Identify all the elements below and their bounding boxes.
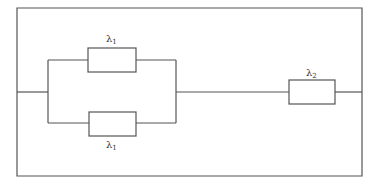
- label-lambda2: λ2: [306, 67, 317, 80]
- component-top-lambda1: [88, 48, 136, 72]
- label-top-lambda1: λ1: [106, 33, 117, 46]
- component-lambda2: [289, 80, 335, 104]
- reliability-block-diagram: λ1 λ1 λ2: [0, 0, 376, 187]
- component-bottom-lambda1: [89, 112, 136, 136]
- label-bottom-lambda1: λ1: [106, 139, 117, 152]
